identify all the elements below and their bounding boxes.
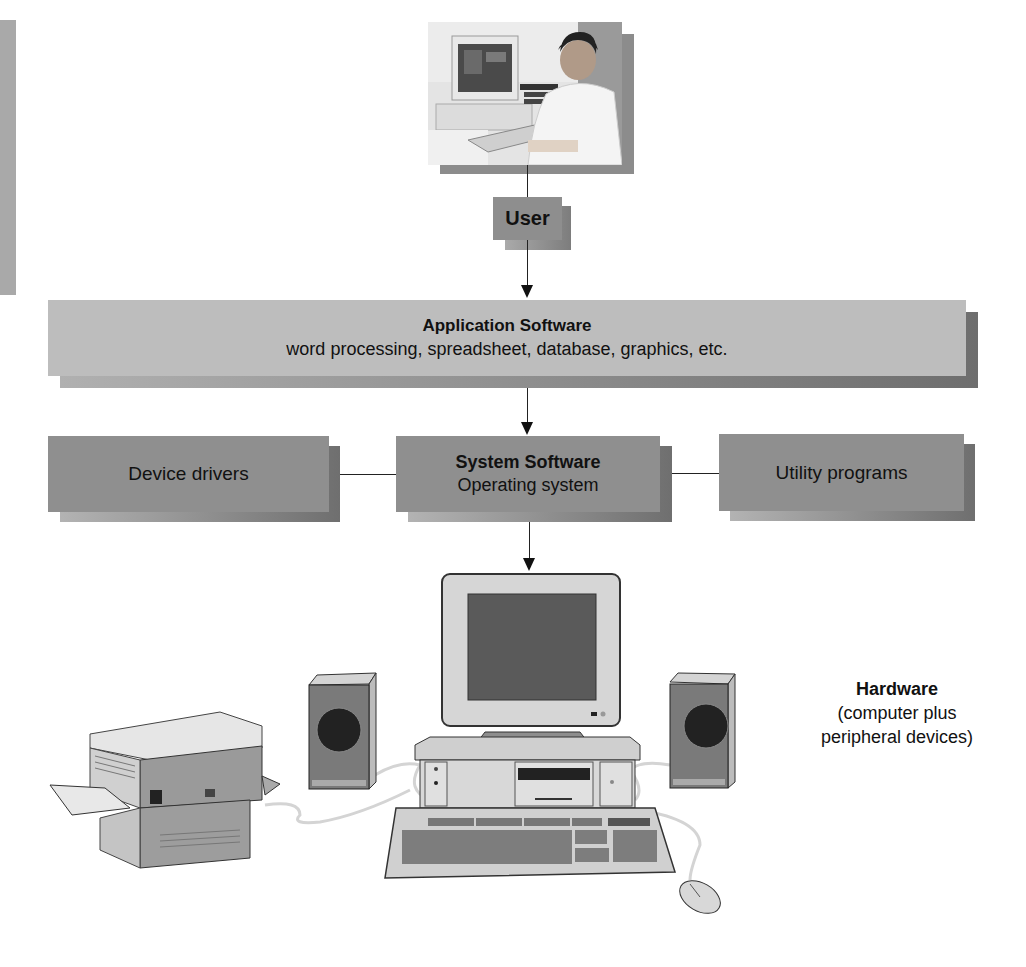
keyboard-icon	[385, 808, 675, 878]
system-software-subtitle: Operating system	[457, 474, 598, 497]
arrow-system-to-hardware-line	[529, 522, 530, 560]
printer-icon	[50, 712, 280, 868]
hardware-subtitle-line2: peripheral devices)	[790, 725, 1004, 749]
system-unit-icon	[415, 737, 640, 808]
arrow-user-to-app-line	[527, 240, 528, 287]
system-software-box: System Software Operating system	[396, 436, 660, 512]
speaker-left-icon	[309, 673, 376, 789]
hardware-subtitle-line1: (computer plus	[790, 701, 1004, 725]
speaker-right-icon	[670, 673, 735, 788]
side-margin-strip	[0, 20, 16, 295]
connector-photo-user	[527, 165, 528, 197]
device-drivers-box: Device drivers	[48, 436, 329, 512]
device-drivers-label: Device drivers	[128, 463, 248, 485]
user-label: User	[505, 207, 549, 230]
hardware-illustration	[40, 570, 760, 930]
utility-programs-label: Utility programs	[776, 462, 908, 484]
mouse-icon	[674, 874, 726, 920]
arrow-down-icon	[521, 285, 533, 298]
app-software-subtitle: word processing, spreadsheet, database, …	[286, 337, 727, 361]
arrow-app-to-system-line	[527, 388, 528, 424]
monitor-icon	[442, 574, 620, 745]
connector-drivers-system	[340, 474, 396, 475]
hardware-title: Hardware	[790, 678, 1004, 701]
app-software-title: Application Software	[422, 315, 591, 337]
application-software-box: Application Software word processing, sp…	[48, 300, 966, 376]
hardware-label: Hardware (computer plus peripheral devic…	[790, 678, 1004, 749]
arrow-down-icon	[521, 422, 533, 435]
user-box: User	[493, 197, 562, 240]
system-software-title: System Software	[455, 451, 600, 474]
user-photo	[428, 22, 622, 165]
connector-system-utility	[672, 473, 719, 474]
utility-programs-box: Utility programs	[719, 434, 964, 511]
